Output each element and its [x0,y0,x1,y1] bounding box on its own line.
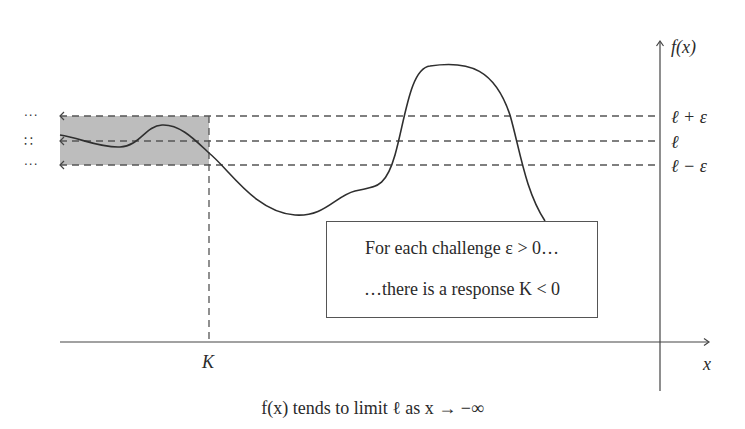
x-axis-label: x [703,355,711,373]
upper-continuation-dots: ··· [24,110,38,122]
middle-continuation-dots: ∷ [24,134,34,148]
figure-caption: f(x) tends to limit ℓ as x → −∞ [0,399,745,417]
upper-bound-label: ℓ + ε [671,108,707,126]
lower-continuation-dots: ··· [24,159,38,171]
lower-bound-label: ℓ − ε [671,157,707,175]
k-label: K [202,353,214,371]
function-curve [60,64,545,221]
callout-box: For each challenge ε > 0… …there is a re… [326,221,598,318]
callout-line-response: …there is a response K < 0 [327,279,597,300]
callout-line-challenge: For each challenge ε > 0… [327,238,597,259]
limit-label: ℓ [671,133,679,151]
middle-dots-glyph: ∷ [24,133,34,149]
y-axis-label: f(x) [671,38,696,56]
limit-diagram-canvas [0,0,745,429]
